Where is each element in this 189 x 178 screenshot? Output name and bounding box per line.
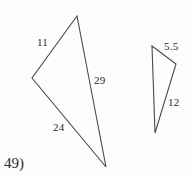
large-triangle-side-label-24: 24	[53, 122, 64, 133]
large-triangle-side-label-11: 11	[37, 37, 48, 48]
large-triangle-side-label-29: 29	[94, 75, 105, 86]
triangles-drawing	[0, 0, 189, 178]
small-triangle-side-label-12: 12	[168, 97, 179, 108]
problem-number: 49)	[4, 156, 24, 171]
small-triangle-side-label-5-5: 5.5	[164, 41, 178, 52]
geometry-figure: 11 29 24 5.5 12 49)	[0, 0, 189, 178]
small-triangle-shape	[152, 46, 176, 133]
